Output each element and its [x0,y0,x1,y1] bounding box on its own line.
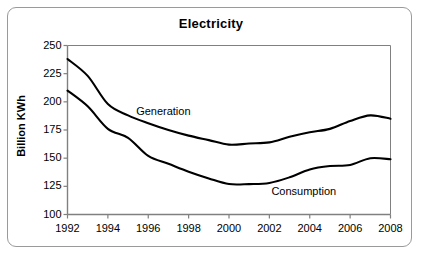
y-axis-tick-label: 125 [28,180,62,191]
y-axis-tick-label: 250 [28,40,62,51]
x-axis-tick-label: 1992 [46,223,90,234]
x-axis-tick-label: 1998 [167,223,211,234]
x-axis-tick-label: 2004 [288,223,332,234]
y-axis-tick-label: 150 [28,152,62,163]
x-axis-tick-label: 2008 [369,223,413,234]
y-axis-tick-label: 225 [28,68,62,79]
series-label-generation: Generation [136,105,190,117]
series-label-consumption: Consumption [271,185,336,197]
plot-area [0,0,422,260]
x-axis-tick-label: 1994 [86,223,130,234]
chart-figure: Electricity Billion KWh 2502252001751501… [0,0,422,260]
x-axis-tick-label: 2000 [207,223,251,234]
y-axis-tick-label: 175 [28,124,62,135]
x-axis-tick-label: 1996 [126,223,170,234]
y-axis-tick-label: 200 [28,96,62,107]
y-axis-tick-label: 100 [28,209,62,220]
series-line-consumption [68,91,391,185]
x-axis-tick-label: 2006 [328,223,372,234]
x-axis-tick-label: 2002 [247,223,291,234]
